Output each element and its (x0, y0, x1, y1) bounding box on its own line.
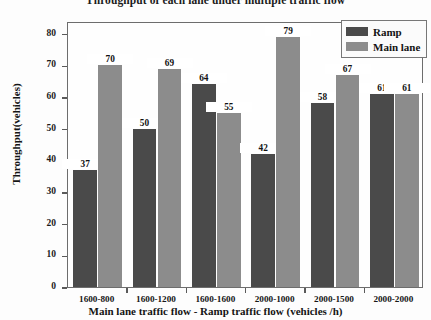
bar-value-label: 64 (181, 73, 227, 83)
bar (395, 94, 419, 287)
bar (370, 94, 394, 287)
bar-value-label: 55 (206, 102, 252, 112)
bar (336, 75, 360, 287)
legend-swatch (346, 27, 368, 36)
legend-item: Main lane (346, 39, 420, 54)
y-axis-tick-label: 0 (51, 281, 56, 291)
x-axis-tick-mark (126, 288, 127, 293)
bar (133, 129, 157, 287)
chart-figure: Throughput of each lane under multiple t… (0, 0, 431, 320)
bar-value-label: 61 (384, 83, 430, 93)
bar-value-label: 79 (265, 26, 311, 36)
bar-value-label: 70 (87, 54, 133, 64)
x-axis-tick-mark (364, 288, 365, 293)
legend-swatch (346, 42, 368, 51)
bar (158, 69, 182, 288)
bar (276, 37, 300, 287)
y-axis-tick-label: 30 (47, 186, 57, 196)
legend-label: Ramp (373, 26, 402, 38)
bar (73, 170, 97, 287)
x-axis-tick-mark (304, 288, 305, 293)
legend-label: Main lane (373, 41, 420, 53)
bar-value-label: 69 (147, 58, 193, 68)
y-axis-tick-label: 60 (47, 91, 57, 101)
x-axis-tick-mark (186, 288, 187, 293)
x-axis-title: Main lane traffic flow - Ramp traffic fl… (0, 305, 431, 317)
plot-area: 377050696455427958676161 (67, 22, 423, 288)
y-axis-title: Throughput(vehicles) (10, 34, 22, 234)
chart-legend: RampMain lane (341, 20, 427, 58)
y-axis-tick-label: 70 (47, 59, 57, 69)
y-axis-tick-label: 40 (47, 154, 57, 164)
bar-value-label: 67 (325, 64, 371, 74)
legend-item: Ramp (346, 24, 420, 39)
y-axis-tick-label: 50 (47, 123, 57, 133)
bar (98, 65, 122, 287)
x-axis-tick-mark (245, 288, 246, 293)
chart-title: Throughput of each lane under multiple t… (0, 0, 431, 6)
bar (311, 103, 335, 287)
y-axis-tick-label: 80 (47, 28, 57, 38)
bar (192, 84, 216, 287)
bar (251, 154, 275, 287)
x-axis-tick-label: 2000-2000 (348, 294, 431, 304)
y-axis-tick-label: 20 (47, 218, 57, 228)
y-axis-tick-label: 10 (47, 249, 57, 259)
bar (217, 113, 241, 287)
